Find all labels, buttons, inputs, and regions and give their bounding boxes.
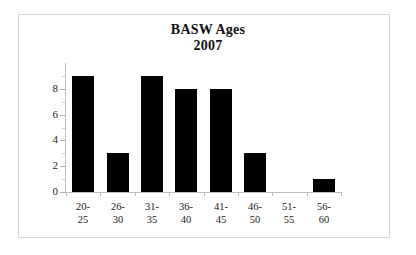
bar-20-25 (72, 76, 94, 192)
y-tick-2 (60, 166, 65, 167)
y-axis-label-8: 8 (18, 83, 58, 94)
x-tick (100, 192, 101, 196)
y-tick-6 (60, 115, 65, 116)
bar-36-40 (175, 89, 197, 192)
x-tick (135, 192, 136, 196)
x-tick (66, 192, 67, 196)
bar-46-50 (244, 153, 266, 192)
x-axis-label-line: 56- (302, 200, 346, 213)
y-axis-line (65, 63, 66, 193)
y-minor-tick (62, 102, 65, 103)
y-axis-label-6: 6 (18, 109, 58, 120)
x-tick (341, 192, 342, 196)
chart-figure: BASW Ages 2007 02468 20-2526-3031-3536-4… (0, 0, 416, 255)
x-axis-label-line: 60 (302, 213, 346, 226)
x-tick (169, 192, 170, 196)
x-axis-label-56-60: 56-60 (302, 200, 346, 226)
y-minor-tick (62, 179, 65, 180)
y-minor-tick (62, 76, 65, 77)
bar-26-30 (107, 153, 129, 192)
bar-56-60 (313, 179, 335, 192)
y-tick-8 (60, 89, 65, 90)
y-tick-0 (60, 192, 65, 193)
x-tick (272, 192, 273, 196)
y-minor-tick (62, 153, 65, 154)
y-tick-4 (60, 140, 65, 141)
y-axis-label-0: 0 (18, 186, 58, 197)
x-tick (204, 192, 205, 196)
x-axis-line (65, 192, 341, 193)
plot-area: 02468 20-2526-3031-3536-4041-4546-5051-5… (0, 0, 416, 255)
x-tick (238, 192, 239, 196)
y-axis-label-4: 4 (18, 134, 58, 145)
x-tick (307, 192, 308, 196)
y-axis-label-2: 2 (18, 160, 58, 171)
bar-31-35 (141, 76, 163, 192)
y-minor-tick (62, 128, 65, 129)
bar-41-45 (210, 89, 232, 192)
